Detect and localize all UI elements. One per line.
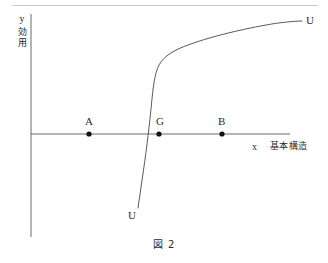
- y-axis-label: y 効 用: [14, 13, 30, 50]
- curve-label-bottom: U: [128, 210, 136, 221]
- x-axis-variable-label: x: [252, 142, 257, 152]
- point-marker-b: [219, 131, 224, 136]
- curve-label-top: U: [306, 15, 314, 26]
- y-axis-unit-char-1: 効: [14, 27, 30, 38]
- figure-caption: 図 2: [0, 236, 328, 251]
- point-marker-g: [156, 131, 161, 136]
- point-marker-a: [86, 131, 91, 136]
- y-axis-unit-char-2: 用: [14, 38, 30, 49]
- x-axis-unit-label: 基本構造: [270, 142, 307, 151]
- y-axis-variable-label: y: [14, 13, 30, 24]
- plot-canvas: [0, 0, 328, 263]
- point-label-g: G: [156, 116, 164, 127]
- point-label-a: A: [85, 116, 93, 127]
- point-label-b: B: [218, 116, 225, 127]
- figure-container: y 効 用 x 基本構造 A G B U U 図 2: [0, 0, 328, 263]
- y-axis-unit-label: 効 用: [14, 27, 30, 50]
